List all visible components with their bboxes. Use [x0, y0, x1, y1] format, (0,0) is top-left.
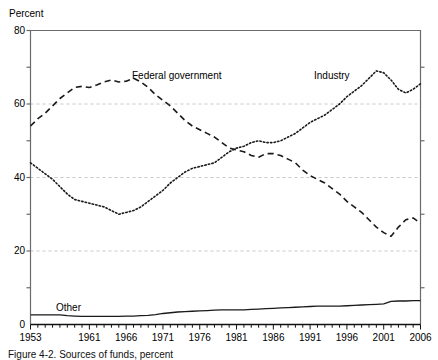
axis-ticks: [27, 31, 425, 330]
series-line-other: [31, 301, 421, 317]
x-tick-label-1971: 1971: [143, 333, 183, 343]
series-paths: [31, 71, 421, 317]
industry-label: Industry: [314, 71, 350, 81]
y-tick-label-0: 0: [3, 320, 25, 330]
x-tick-label-1996: 1996: [327, 333, 367, 343]
x-tick-label-1953: 1953: [11, 333, 51, 343]
x-tick-label-1966: 1966: [106, 333, 146, 343]
other-label: Other: [56, 303, 81, 313]
federal-government-label: Federal government: [132, 71, 222, 81]
x-tick-label-1986: 1986: [253, 333, 293, 343]
y-tick-label-40: 40: [3, 173, 25, 183]
series-line-industry: [31, 71, 421, 214]
x-tick-label-1991: 1991: [290, 333, 330, 343]
series-line-federal-government: [31, 78, 421, 236]
x-tick-label-1961: 1961: [69, 333, 109, 343]
x-tick-label-1976: 1976: [180, 333, 220, 343]
x-tick-label-2006: 2006: [401, 333, 438, 343]
y-tick-label-20: 20: [3, 246, 25, 256]
x-tick-label-2001: 2001: [364, 333, 404, 343]
gridlines: [31, 104, 421, 251]
y-tick-label-80: 80: [3, 26, 25, 36]
x-tick-label-1981: 1981: [217, 333, 257, 343]
chart-figure: Percent 806040200 1953196119661971197619…: [0, 0, 438, 360]
y-tick-label-60: 60: [3, 99, 25, 109]
figure-caption: Figure 4-2. Sources of funds, percent: [8, 349, 438, 360]
y-axis-title: Percent: [9, 8, 43, 19]
